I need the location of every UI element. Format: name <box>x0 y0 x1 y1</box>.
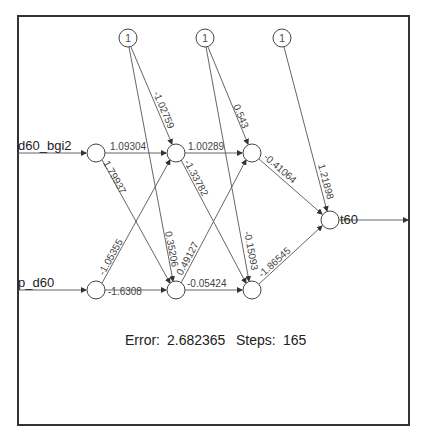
training-summary: Error: 2.682365 Steps: 165 <box>125 332 307 348</box>
input-label-2: p_d60 <box>18 275 54 290</box>
weight-in1-h1a: 1.09304 <box>110 141 147 152</box>
weight-h1b-h2b: -0.05424 <box>187 278 227 289</box>
edge-b1-h1a <box>131 47 172 144</box>
input-node-2 <box>87 281 105 299</box>
hidden2-node-a <box>243 144 261 162</box>
error-label: Error: <box>125 332 160 348</box>
edge-b2-h2b <box>206 47 249 281</box>
bias-label-1: 1 <box>125 32 131 44</box>
hidden2-node-b <box>243 281 261 299</box>
output-label: t60 <box>340 212 358 227</box>
bias-label-2: 1 <box>202 32 208 44</box>
weight-in2-h1a: -1.05355 <box>96 237 125 277</box>
error-value: 2.682365 <box>167 332 226 348</box>
edge-h2a-out <box>259 159 322 214</box>
input-node-1 <box>87 144 105 162</box>
weight-in1-h1b: 1.79937 <box>101 159 128 196</box>
input-label-1: d60_bgi2 <box>18 138 72 153</box>
hidden1-node-a <box>167 144 185 162</box>
steps-label: Steps: <box>236 332 276 348</box>
neural-network-plot: 1 1 1 d60_bgi2 p_d60 t60 1.09304 -1.6308… <box>0 0 423 442</box>
weight-b2-h2b: -0.15093 <box>242 230 260 271</box>
weight-h1a-h2a: 1.00289 <box>188 141 225 152</box>
weight-b2-h2a: 0.543 <box>231 102 251 130</box>
weight-h1a-h2b: -1.33782 <box>182 158 210 198</box>
edge-b2-h2a <box>208 47 248 144</box>
bias-label-3: 1 <box>279 32 285 44</box>
steps-value: 165 <box>283 332 307 348</box>
weight-h2b-out: -1.86545 <box>256 245 293 280</box>
output-node <box>321 211 339 229</box>
weight-in2-h1b: -1.6308 <box>108 286 142 297</box>
weight-h2a-out: -0.41064 <box>262 151 299 185</box>
hidden1-node-b <box>167 281 185 299</box>
